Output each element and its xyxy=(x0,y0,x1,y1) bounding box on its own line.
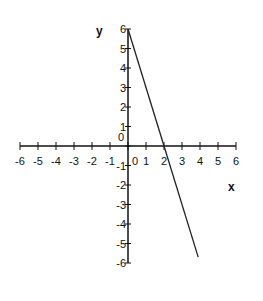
x-axis-label: x xyxy=(228,180,235,194)
data-series xyxy=(128,29,198,257)
y-tick-label: -2 xyxy=(116,179,126,191)
y-tick-label: -3 xyxy=(116,199,126,211)
y-tick-label: 5 xyxy=(120,43,126,55)
y-tick-label: 1 xyxy=(120,121,126,133)
y-tick-label: -6 xyxy=(116,257,126,269)
x-tick-label: -3 xyxy=(69,155,79,167)
y-tick-label: 3 xyxy=(120,82,126,94)
x-tick-label: 6 xyxy=(233,155,239,167)
x-tick-label: -4 xyxy=(51,155,61,167)
x-tick-label: -5 xyxy=(33,155,43,167)
x-tick-label: -6 xyxy=(15,155,25,167)
y-tick-label: -5 xyxy=(116,238,126,250)
series-line xyxy=(128,29,198,257)
x-tick-label: -2 xyxy=(87,155,97,167)
x-tick-label: 0 xyxy=(132,155,138,167)
y-tick-label: -1 xyxy=(116,160,126,172)
x-tick-label: -1 xyxy=(105,155,115,167)
y-tick-label: 4 xyxy=(120,62,126,74)
x-tick-label: 3 xyxy=(179,155,185,167)
x-tick-label: 4 xyxy=(197,155,203,167)
y-axis-label: y xyxy=(96,24,103,38)
x-tick-label: 5 xyxy=(215,155,221,167)
y-tick-label: 2 xyxy=(120,101,126,113)
y-tick-label: 0 xyxy=(118,131,124,143)
line-chart: -6-5-4-3-2-10123456-6-5-4-3-2-10123456 y… xyxy=(0,0,263,301)
y-tick-label: 6 xyxy=(120,23,126,35)
x-tick-label: 1 xyxy=(143,155,149,167)
x-tick-label: 2 xyxy=(161,155,167,167)
y-tick-label: -4 xyxy=(116,218,126,230)
